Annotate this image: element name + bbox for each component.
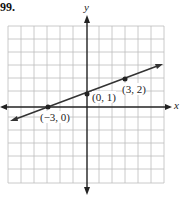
point-0-1 <box>85 92 90 97</box>
y-axis-label: y <box>84 1 89 13</box>
coordinate-graph <box>0 0 182 198</box>
point-label-0-1: (0, 1) <box>92 91 116 103</box>
y-axis <box>84 15 90 195</box>
point-label-3-2: (3, 2) <box>122 83 146 95</box>
point-neg3-0 <box>46 105 51 110</box>
grid <box>8 26 164 183</box>
x-axis-label: x <box>174 99 179 111</box>
point-label-neg3-0: (−3, 0) <box>40 111 70 123</box>
point-3-2 <box>123 77 128 82</box>
x-axis <box>0 104 172 110</box>
